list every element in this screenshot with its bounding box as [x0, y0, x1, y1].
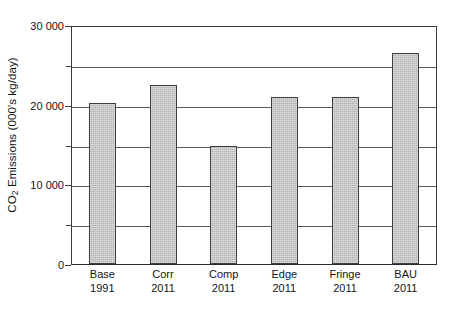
x-tick-edge: Edge2011 [271, 268, 297, 295]
bar-corr[interactable] [150, 85, 177, 264]
x-tick-fringe: Fringe2011 [329, 268, 360, 295]
y-axis-tick-labels: 0 10 000 20 000 30 000 [0, 26, 64, 265]
bar-comp[interactable] [210, 146, 237, 265]
x-tick-comp: Comp2011 [209, 268, 238, 295]
y-tick-label-20000: 20 000 [2, 100, 64, 112]
x-axis-tick-labels: Base1991 Corr2011 Comp2011 Edge2011 Frin… [71, 268, 437, 310]
bar-base[interactable] [89, 103, 116, 264]
y-tick-mark-0 [65, 265, 71, 266]
plot-area [71, 26, 437, 265]
bar-edge[interactable] [271, 97, 298, 264]
bar-fringe[interactable] [332, 97, 359, 264]
bars-layer [72, 27, 436, 264]
x-tick-bau: BAU2011 [394, 268, 418, 295]
y-axis-tick-marks [64, 26, 71, 265]
y-tick-label-10000: 10 000 [2, 179, 64, 191]
x-tick-base: Base1991 [90, 268, 115, 295]
x-tick-corr: Corr2011 [151, 268, 175, 295]
bar-bau[interactable] [392, 53, 419, 264]
bar-chart: CO2 Emissions (000's kg/day) 0 10 000 20… [0, 0, 462, 311]
y-tick-label-30000: 30 000 [2, 20, 64, 32]
y-tick-label-0: 0 [2, 259, 64, 271]
